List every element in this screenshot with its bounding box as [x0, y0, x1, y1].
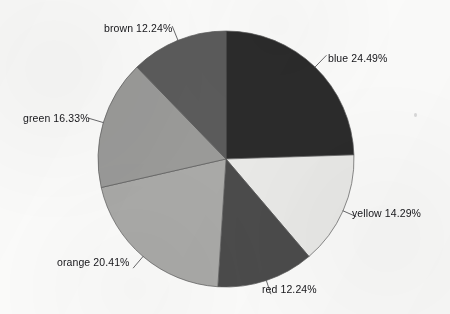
slice-label-yellow: yellow 14.29%: [352, 208, 421, 219]
leader-line-orange: [133, 256, 143, 267]
slice-label-orange: orange 20.41%: [57, 257, 130, 268]
pie-chart-figure: blue 24.49% yellow 14.29% red 12.24% ora…: [0, 0, 450, 314]
slice-label-green: green 16.33%: [23, 113, 90, 124]
scan-artifact-speck: [414, 113, 417, 117]
leader-line-brown: [172, 26, 178, 40]
leader-line-green: [89, 118, 103, 122]
pie-slice-group: [98, 31, 354, 287]
slice-label-brown: brown 12.24%: [104, 23, 172, 34]
slice-label-red: red 12.24%: [262, 284, 317, 295]
pie-slice-blue[interactable]: [226, 31, 354, 159]
leader-line-blue: [315, 56, 326, 68]
slice-label-blue: blue 24.49%: [328, 53, 387, 64]
